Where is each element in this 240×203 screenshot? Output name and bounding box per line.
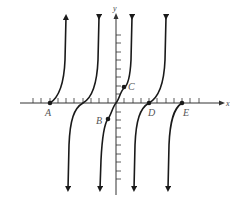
x-axis-label: x bbox=[225, 99, 230, 108]
svg-text:C: C bbox=[128, 81, 135, 92]
tangent-graph: x y A B C D E bbox=[0, 0, 240, 203]
curve-branch-1 bbox=[50, 17, 66, 103]
svg-text:E: E bbox=[182, 107, 189, 118]
svg-text:A: A bbox=[44, 107, 52, 118]
svg-text:D: D bbox=[147, 107, 156, 118]
point-C: C bbox=[122, 81, 135, 92]
y-axis-label: y bbox=[112, 4, 117, 13]
svg-text:B: B bbox=[96, 115, 102, 126]
curve-branch-5 bbox=[168, 103, 182, 189]
point-B: B bbox=[96, 115, 110, 126]
y-axis-ticks bbox=[116, 35, 121, 179]
